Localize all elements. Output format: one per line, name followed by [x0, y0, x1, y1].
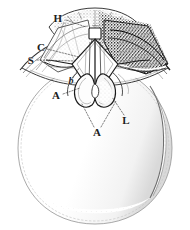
engraving-artwork	[0, 0, 190, 230]
anatomical-figure-plate: H C S b A A L	[0, 0, 190, 230]
